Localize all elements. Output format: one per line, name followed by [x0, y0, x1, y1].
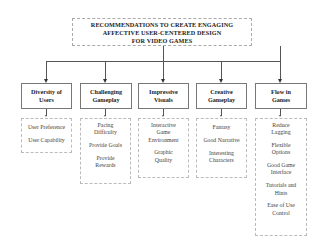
- items-flow-in-games: Reduce Lagging Flexible Options Good Gam…: [255, 118, 307, 236]
- list-item: User Capability: [22, 137, 71, 144]
- list-item: Tutorials and Hints: [256, 182, 306, 197]
- category-flow-in-games: Flow inGames: [255, 83, 307, 109]
- list-item: Good Narrative: [197, 137, 246, 144]
- small-arrow-icon: [279, 115, 281, 117]
- root-stem: [280, 46, 281, 61]
- small-arrow-icon: [45, 115, 47, 117]
- items-diversity-of-users: User Preference User Capability: [21, 118, 72, 153]
- category-title-line: Gameplay: [208, 96, 235, 104]
- items-impressive-visuals: Interactive Game Environment Graphic Qua…: [138, 118, 189, 178]
- items-challenging-gameplay: Pacing Difficulty Provide Goals Provide …: [80, 118, 131, 184]
- category-impressive-visuals: ImpressiveVisuals: [138, 83, 189, 109]
- list-item: Fantasy: [197, 124, 246, 131]
- root-title-line: AFFECTIVE USER-CENTERED DESIGN: [73, 29, 251, 37]
- list-item: Good Game Interface: [256, 162, 306, 177]
- list-item: User Preference: [22, 124, 71, 131]
- category-diversity-of-users: Diversity ofUsers: [21, 83, 72, 109]
- list-item: Ease of Use Control: [256, 202, 306, 217]
- category-creative-gameplay: CreativeGameplay: [196, 83, 247, 109]
- category-title-line: Creative: [208, 88, 235, 96]
- drop-line-3: [163, 46, 164, 79]
- list-item: Provide Goals: [81, 142, 130, 149]
- list-item: Pacing Difficulty: [81, 122, 130, 137]
- small-arrow-icon: [104, 115, 106, 117]
- category-title-line: Diversity of: [31, 88, 62, 96]
- category-title-line: Games: [271, 96, 291, 104]
- category-title-line: Flow in: [271, 88, 291, 96]
- root-node: RECOMMENDATIONS TO CREATE ENGAGING AFFEC…: [72, 18, 252, 46]
- category-title-line: Gameplay: [90, 96, 122, 104]
- small-arrow-icon: [220, 115, 222, 117]
- list-item: Reduce Lagging: [256, 122, 306, 137]
- category-title-line: Visuals: [149, 96, 178, 104]
- list-item: Flexible Options: [256, 142, 306, 157]
- drop-line-1: [46, 61, 47, 79]
- drop-line-2: [105, 61, 106, 79]
- items-creative-gameplay: Fantasy Good Narrative Interesting Chara…: [196, 118, 247, 178]
- category-challenging-gameplay: ChallengingGameplay: [80, 83, 132, 109]
- category-title-line: Impressive: [149, 88, 178, 96]
- drop-line-4: [221, 61, 222, 79]
- list-item: Interactive Game Environment: [139, 122, 188, 144]
- root-title-line: FOR VIDEO GAMES: [73, 37, 251, 45]
- category-title-line: Users: [31, 96, 62, 104]
- list-item: Graphic Quality: [139, 149, 188, 164]
- small-arrow-icon: [162, 115, 164, 117]
- list-item: Provide Rewards: [81, 155, 130, 170]
- drop-line-5: [280, 61, 281, 79]
- root-title-line: RECOMMENDATIONS TO CREATE ENGAGING: [73, 21, 251, 29]
- category-title-line: Challenging: [90, 88, 122, 96]
- list-item: Interesting Characters: [197, 150, 246, 165]
